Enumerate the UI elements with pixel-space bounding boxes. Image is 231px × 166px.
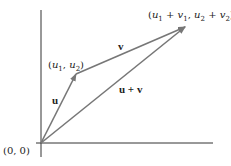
- point-u-label: (u1, u2): [48, 60, 84, 73]
- origin-label: (0, 0): [3, 146, 30, 156]
- label-u: u: [52, 95, 58, 106]
- vector-u: [41, 74, 76, 143]
- vector-v: [76, 27, 185, 74]
- diagram-svg: [0, 0, 231, 166]
- label-v: v: [118, 41, 124, 52]
- vector-u-plus-v: [41, 27, 185, 143]
- label-u-plus-v: u + v: [119, 84, 142, 95]
- vector-addition-diagram: (0, 0) (u1, u2) (u1 + v1, u2 + v2) u v u…: [0, 0, 231, 166]
- point-sum-label: (u1 + v1, u2 + v2): [148, 10, 231, 23]
